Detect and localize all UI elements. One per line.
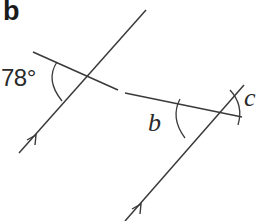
angle-label-78: 78°: [1, 64, 36, 92]
transversal-line-segment-1: [33, 52, 118, 90]
angle-label-b: b: [148, 108, 161, 138]
angle-arc-78: [52, 62, 62, 101]
angle-arc-c: [230, 90, 240, 125]
parallel-lines-diagram: b 78° b c: [0, 0, 258, 221]
angle-label-c: c: [244, 83, 256, 113]
diagram-canvas: [0, 0, 258, 221]
part-label: b: [3, 0, 20, 27]
left-parallel-line: [19, 10, 146, 153]
transversal-line-segment-2: [125, 93, 242, 117]
